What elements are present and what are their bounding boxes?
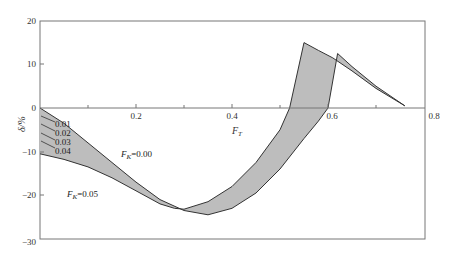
x-ticks [88,104,376,108]
y-axis-label: δ/% [16,116,27,132]
x-tick-0.2: 0.2 [130,111,141,121]
x-tick-0.8: 0.8 [428,111,440,121]
y-tick-20: 20 [27,16,37,26]
x-tick-0.4: 0.4 [226,111,238,121]
y-tick-neg20: −20 [22,190,37,200]
y-tick-10: 10 [27,59,37,69]
y-tick-0: 0 [32,103,37,113]
y-tick-neg10: −10 [22,147,37,157]
contour-label-0.04: 0.04 [55,146,71,156]
chart: 20 10 0 −10 −20 −30 0.2 0.4 0.6 0.8 δ/% … [0,0,456,257]
x-tick-0.6: 0.6 [326,111,338,121]
annotation-fk-0.05: FK=0.05 [66,189,98,201]
x-axis-label: FT [231,125,243,138]
y-tick-neg30: −30 [22,237,37,247]
annotation-fk-0.00: FK=0.00 [120,149,152,161]
